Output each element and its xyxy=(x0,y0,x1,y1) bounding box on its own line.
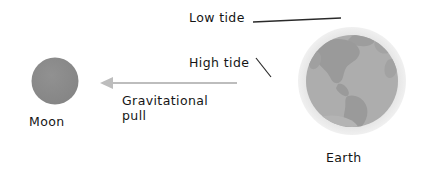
low-tide-leader-line xyxy=(253,18,341,22)
gravitational-pull-label-line2: pull xyxy=(122,108,146,123)
gravitational-pull-arrow xyxy=(100,77,237,89)
high-tide-leader-line xyxy=(256,58,271,77)
tide-diagram: Low tide High tide Gravitationalpull Moo… xyxy=(0,0,429,178)
gravitational-pull-label: Gravitationalpull xyxy=(122,93,208,123)
gravitational-pull-label-line1: Gravitational xyxy=(122,93,208,108)
moon-body xyxy=(32,58,79,105)
diagram-canvas xyxy=(0,0,429,178)
high-tide-label: High tide xyxy=(189,55,249,70)
low-tide-label: Low tide xyxy=(189,10,245,25)
moon-label: Moon xyxy=(29,114,65,129)
earth-label: Earth xyxy=(326,150,362,165)
